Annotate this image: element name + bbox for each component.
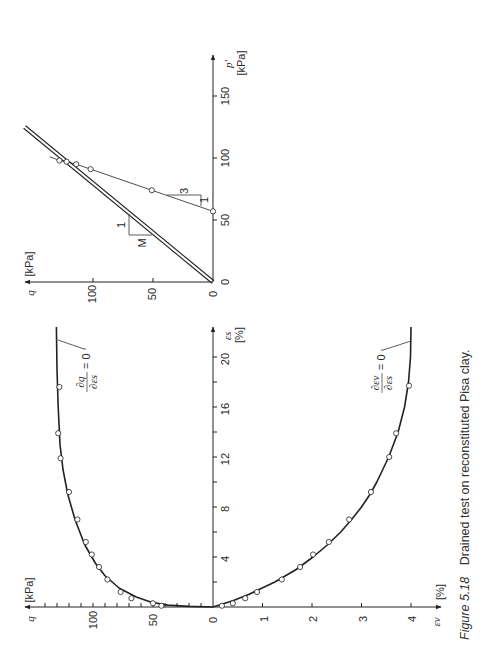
stress-path-plot: p' [kPa] q [kPa] 0 50 100 150 0 50 100 1… [23, 50, 247, 303]
q-tick-top-0: 0 [207, 291, 219, 297]
ev-tick-3: 3 [357, 616, 369, 622]
tri-M-run-label: 1 [115, 222, 127, 228]
es-tick-8: 8 [219, 506, 231, 512]
q-data-marker [159, 603, 164, 608]
q-data-marker [129, 596, 134, 601]
q-axis-unit-bottom: [kPa] [23, 577, 35, 602]
q-axis-name-top: q [24, 290, 36, 296]
q-data-marker [96, 564, 101, 569]
tri-M-rise-label: M [136, 238, 148, 247]
p-axis-unit: [kPa] [235, 50, 247, 75]
strain-plot: εs [%] q [kPa] εv [%] 4 8 12 16 20 0 50 … [23, 327, 446, 629]
annot-ev-rhs: = 0 [375, 354, 387, 370]
ev-data-marker [279, 577, 284, 582]
es-axis-unit: [%] [233, 327, 245, 343]
q-tick-bottom-0: 0 [207, 617, 219, 623]
p-tick-150: 150 [219, 87, 231, 105]
ev-data-marker [394, 431, 399, 436]
p-tick-100: 100 [219, 149, 231, 167]
figure-svg: p' [kPa] q [kPa] 0 50 100 150 0 50 100 1… [0, 0, 499, 658]
ev-data-marker [230, 601, 235, 606]
q-data-marker [66, 489, 71, 494]
annot-q-numerator: ∂q [74, 376, 86, 387]
es-tick-16: 16 [219, 403, 231, 415]
q-tick-bottom-50: 50 [147, 614, 159, 626]
caption-number: Figure 5.18 [458, 577, 472, 640]
critical-state-line [24, 128, 212, 283]
annot-q-fraction: ∂q ∂εs = 0 [74, 353, 99, 392]
annot-ev-numerator: ∂εv [369, 376, 381, 391]
ev-tick-2: 2 [307, 616, 319, 622]
ev-data-marker [347, 517, 352, 522]
q-data-marker [56, 431, 61, 436]
q-data-marker [150, 601, 155, 606]
stress-path-marker [64, 159, 69, 164]
annot-ev-denominator: ∂εs [382, 376, 394, 390]
ev-data-marker [243, 596, 248, 601]
ev-data-marker [406, 383, 411, 388]
p-axis-name: p' [222, 59, 234, 69]
q-data-marker [105, 577, 110, 582]
q-tick-top-50: 50 [146, 288, 158, 300]
ev-data-marker [326, 539, 331, 544]
stress-path-marker [149, 188, 154, 193]
q-data-marker [118, 589, 123, 594]
figure-5-18: p' [kPa] q [kPa] 0 50 100 150 0 50 100 1… [0, 0, 499, 658]
ev-data-marker [298, 564, 303, 569]
bottom-series [56, 327, 412, 608]
svg-text:Figure 5.18 Drained te: Figure 5.18 Drained test on reconstitute… [458, 349, 472, 640]
tri-3-rise-label: 3 [178, 188, 190, 194]
slope-triangle-3 [167, 195, 201, 206]
q-data-marker [58, 456, 63, 461]
es-axis-name: εs [221, 332, 233, 341]
ev-axis-unit: [%] [434, 584, 446, 600]
annot-ev-fraction: ∂εv ∂εs = 0 [369, 354, 394, 393]
ev-axis-name: εv [430, 617, 442, 626]
q-data-marker [83, 539, 88, 544]
critical-state-line [26, 126, 214, 281]
stress-path-marker [210, 209, 215, 214]
q-tick-top-100: 100 [86, 285, 98, 303]
ev-data-marker [310, 552, 315, 557]
annot-q-leader [58, 340, 86, 349]
q-data-marker [57, 384, 62, 389]
top-axis-ticks [93, 96, 217, 282]
top-series [24, 126, 216, 283]
q-axis-name-bottom: q [24, 616, 36, 622]
tri-3-run-label: 1 [198, 197, 210, 203]
es-tick-4: 4 [219, 556, 231, 562]
ev-data-marker [387, 454, 392, 459]
caption-text: Drained test on reconstituted Pisa clay. [458, 349, 472, 565]
q-axis-unit-top: [kPa] [23, 251, 35, 276]
annot-ev-leader [381, 341, 411, 350]
p-tick-0: 0 [219, 279, 231, 285]
es-tick-12: 12 [219, 453, 231, 465]
q-data-marker [89, 552, 94, 557]
ev-data-marker [368, 489, 373, 494]
annot-q-denominator: ∂εs [87, 375, 99, 389]
p-tick-50: 50 [219, 214, 231, 226]
stress-path-marker [74, 162, 79, 167]
stress-path-marker [57, 158, 62, 163]
annot-q-rhs: = 0 [80, 353, 92, 369]
stress-path-marker [88, 167, 93, 172]
ev-tick-4: 4 [406, 616, 418, 622]
q-data-marker [75, 517, 80, 522]
ev-data-marker [219, 603, 224, 608]
ev-data-marker [254, 589, 259, 594]
figure-caption: Figure 5.18 Drained test on reconstitute… [458, 349, 472, 640]
ev-tick-1: 1 [258, 616, 270, 622]
q-tick-bottom-100: 100 [87, 611, 99, 629]
es-tick-20: 20 [219, 353, 231, 365]
